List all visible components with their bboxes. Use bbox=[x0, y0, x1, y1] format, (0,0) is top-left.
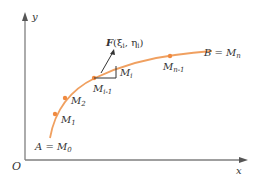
y-axis-label: y bbox=[31, 11, 38, 22]
force-label: F(ξi, ηi) bbox=[105, 37, 143, 50]
x-axis bbox=[25, 157, 248, 163]
point-Mn-1 bbox=[168, 54, 172, 58]
label-M2: M2 bbox=[70, 95, 86, 108]
origin-label: O bbox=[12, 160, 21, 173]
y-axis bbox=[22, 12, 28, 160]
label-A: A = M0 bbox=[34, 141, 72, 154]
label-Mn-1: Mn-1 bbox=[162, 61, 185, 74]
force-vector bbox=[101, 52, 113, 73]
point-M1 bbox=[53, 112, 57, 116]
force-arrow-icon bbox=[110, 49, 115, 55]
label-Mi-1: Mi-1 bbox=[92, 83, 112, 96]
y-axis-arrow-icon bbox=[22, 12, 28, 21]
label-B: B = Mn bbox=[203, 47, 241, 60]
curve-integral-diagram: y x O F(ξi, ηi) Mi Mi-1 Mn-1 M2 M1 A = M… bbox=[0, 0, 253, 181]
x-axis-arrow-icon bbox=[239, 157, 248, 163]
x-axis-label: x bbox=[236, 165, 242, 176]
label-M1: M1 bbox=[60, 114, 76, 127]
label-Mi: Mi bbox=[119, 67, 133, 80]
point-M2 bbox=[63, 96, 67, 100]
